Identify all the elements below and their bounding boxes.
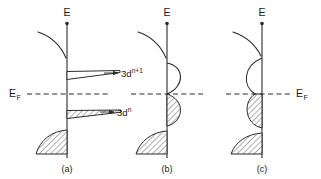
panel-caption-b: (b) <box>162 164 173 174</box>
energy-axis-arrow-a <box>65 22 69 26</box>
energy-axis-label-c: E <box>258 6 265 18</box>
panel-caption-c: (c) <box>257 164 268 174</box>
density-of-states-figure: E EF (a) 3dn+1 3dn E <box>0 0 321 179</box>
energy-axis-label-a: E <box>63 6 70 18</box>
panel-caption-a: (a) <box>62 164 73 174</box>
energy-axis-arrow-b <box>165 22 169 26</box>
energy-axis-label-b: E <box>163 6 170 18</box>
energy-axis-arrow-c <box>260 22 264 26</box>
figure-canvas: E EF (a) 3dn+1 3dn E <box>0 0 321 179</box>
